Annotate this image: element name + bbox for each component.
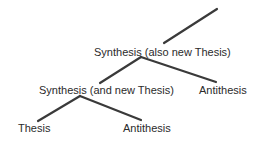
edge-top-to-mid-antithesis <box>141 57 216 82</box>
node-thesis: Thesis <box>18 122 50 134</box>
edge-top-continuation <box>164 9 217 43</box>
node-bottom-antithesis: Antithesis <box>123 122 171 134</box>
node-mid-antithesis: Antithesis <box>199 84 247 96</box>
node-top-synthesis: Synthesis (also new Thesis) <box>94 46 231 58</box>
edge-mid-to-bottom-antithesis <box>80 96 141 120</box>
edge-top-to-mid-synthesis <box>100 57 141 83</box>
diagram-edges <box>0 0 254 141</box>
node-mid-synthesis: Synthesis (and new Thesis) <box>39 84 174 96</box>
edge-mid-to-thesis <box>38 96 80 121</box>
